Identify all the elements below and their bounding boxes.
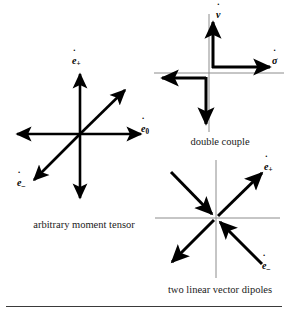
- label-dot-accent: ˙: [273, 50, 276, 60]
- panel-two-linear-vector-dipoles: e˙+ e˙–: [152, 158, 288, 284]
- panel-arbitrary-moment-tensor: e˙+ e˙0 e˙–: [8, 58, 158, 218]
- arrow-diagonal-ne: [80, 90, 125, 134]
- label-subscript: +: [77, 60, 81, 68]
- arrow-e-plus-ne-outward: [218, 173, 262, 216]
- label-e-plus-dipoles: e˙+: [264, 162, 273, 175]
- label-v-dot: v˙: [216, 10, 220, 20]
- label-subscript: 0: [146, 128, 150, 136]
- label-dot-accent: ˙: [142, 118, 145, 128]
- arrow-e-minus-sw: [34, 134, 80, 180]
- arrow-nw-inward: [171, 172, 212, 214]
- caption-two-linear-vector-dipoles: two linear vector dipoles: [152, 284, 288, 296]
- label-dot-accent: ˙: [265, 156, 268, 166]
- label-e-minus-dipoles: e˙–: [262, 261, 270, 274]
- label-dot-accent: ˙: [217, 4, 220, 14]
- label-subscript: –: [22, 182, 26, 190]
- label-dot-accent: ˙: [73, 50, 76, 60]
- label-sigma-dot: σ˙: [272, 56, 277, 66]
- page-bottom-rule: [6, 306, 282, 307]
- figure-canvas: e˙+ e˙0 e˙– arbitrary moment tensor: [0, 0, 288, 311]
- label-dot-accent: ˙: [18, 172, 21, 182]
- label-e-zero-moment-tensor: e˙0: [141, 124, 149, 137]
- arrow-sw-outward: [172, 220, 214, 262]
- label-e-minus-moment-tensor: e˙–: [17, 178, 25, 191]
- label-subscript: –: [267, 265, 271, 273]
- arrow-e-minus-se-inward: [220, 222, 262, 264]
- panel-double-couple: v˙ σ˙: [152, 10, 288, 136]
- caption-arbitrary-moment-tensor: arbitrary moment tensor: [14, 219, 154, 231]
- label-subscript: +: [269, 166, 273, 174]
- caption-double-couple: double couple: [168, 136, 272, 148]
- label-dot-accent: ˙: [263, 255, 266, 265]
- label-e-plus-moment-tensor: e˙+: [72, 56, 81, 69]
